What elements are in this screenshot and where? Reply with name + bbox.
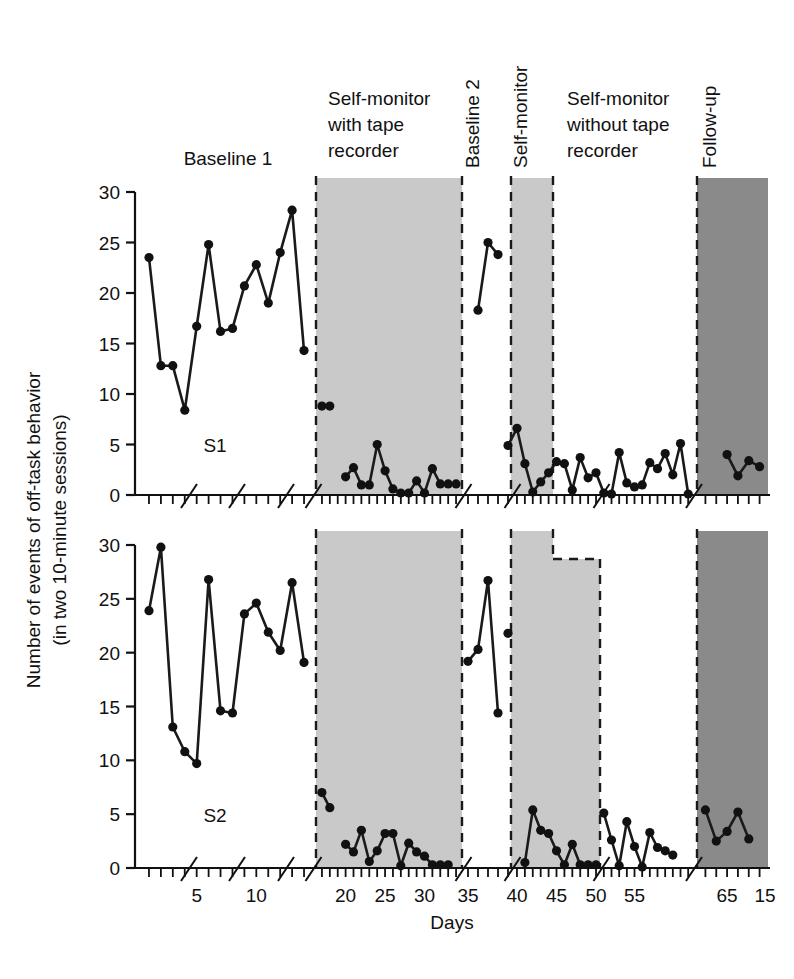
phase-label-sm-tape-line2: with tape [327, 114, 404, 135]
data-point-s2-2-4 [373, 846, 382, 855]
x-tick-label-20: 20 [335, 885, 356, 906]
data-point-s1-0-6 [216, 327, 225, 336]
y-axis-title-line1: Number of events of off-task behavior [23, 371, 44, 688]
data-point-s1-0-10 [264, 299, 273, 308]
data-point-s1-4-0 [503, 441, 512, 450]
data-point-s1-5-3 [584, 473, 593, 482]
x-tick-label-45: 45 [546, 885, 567, 906]
data-point-s2-0-6 [216, 706, 225, 715]
data-point-s1-6-1 [733, 471, 742, 480]
data-point-s2-6-5 [638, 862, 647, 871]
data-point-s2-3-2 [483, 576, 492, 585]
data-point-s1-0-2 [168, 361, 177, 370]
data-point-s1-5-4 [591, 468, 600, 477]
data-point-s2-5-9 [591, 860, 600, 869]
series-line-s2-3 [468, 581, 498, 714]
y-tick-label-bottom-15: 15 [99, 697, 120, 718]
phase-band-self-monitor-bottom [511, 559, 600, 868]
data-point-s1-2-9 [412, 476, 421, 485]
data-point-s1-5-15 [676, 439, 685, 448]
data-point-s2-0-7 [228, 708, 237, 717]
data-point-s2-2-2 [357, 826, 366, 835]
data-point-s2-0-8 [240, 609, 249, 618]
data-point-s2-2-11 [428, 860, 437, 869]
data-point-s2-2-7 [396, 861, 405, 870]
x-tick-label-30: 30 [414, 885, 435, 906]
data-point-s1-2-1 [349, 463, 358, 472]
x-tick-label-15: 15 [754, 885, 775, 906]
data-point-s2-1-1 [325, 803, 334, 812]
data-point-s2-0-0 [144, 606, 153, 615]
phase-band-self-monitor-stub-bottom [511, 531, 553, 559]
data-point-s2-2-6 [388, 829, 397, 838]
data-point-s2-3-3 [493, 708, 502, 717]
phase-label-sm-notape-line3: recorder [567, 140, 638, 161]
phase-label-sm-tape-line3: recorder [328, 140, 399, 161]
data-point-s2-2-10 [420, 852, 429, 861]
data-point-s1-5-12 [653, 464, 662, 473]
data-point-s2-3-0 [463, 657, 472, 666]
data-point-s2-5-1 [528, 805, 537, 814]
y-tick-label-top-15: 15 [99, 334, 120, 355]
data-point-s1-0-0 [144, 253, 153, 262]
data-point-s1-4-2 [520, 459, 529, 468]
data-point-s2-0-3 [180, 747, 189, 756]
data-point-s1-5-14 [668, 470, 677, 479]
data-point-s1-5-11 [645, 458, 654, 467]
x-tick-label-10: 10 [246, 885, 267, 906]
data-point-s1-4-6 [552, 457, 561, 466]
x-axis-title: Days [430, 912, 473, 933]
y-tick-label-bottom-0: 0 [109, 858, 120, 879]
data-point-s2-7-1 [712, 837, 721, 846]
data-point-s2-2-1 [349, 847, 358, 856]
data-point-s1-4-3 [528, 487, 537, 496]
data-point-s1-5-6 [607, 489, 616, 498]
data-point-s1-2-2 [357, 480, 366, 489]
data-point-s1-5-0 [560, 459, 569, 468]
y-tick-label-top-25: 25 [99, 233, 120, 254]
data-point-s2-0-2 [168, 722, 177, 731]
data-point-s1-3-2 [493, 250, 502, 259]
data-point-s2-5-0 [520, 858, 529, 867]
data-point-s2-2-12 [436, 860, 445, 869]
data-point-s1-5-16 [684, 489, 693, 498]
data-point-s1-2-6 [388, 484, 397, 493]
y-tick-label-bottom-25: 25 [99, 589, 120, 610]
phase-label-baseline2: Baseline 2 [462, 79, 483, 168]
data-point-s1-0-9 [252, 260, 261, 269]
data-point-s2-5-4 [552, 846, 561, 855]
y-tick-label-top-5: 5 [109, 435, 120, 456]
series-line-s1-0 [149, 210, 304, 410]
data-point-s2-6-6 [645, 828, 654, 837]
data-point-s2-6-2 [615, 861, 624, 870]
data-point-s2-6-9 [668, 851, 677, 860]
data-point-s2-3-1 [473, 645, 482, 654]
data-point-s1-2-8 [404, 488, 413, 497]
data-point-s1-2-14 [452, 479, 461, 488]
data-point-s2-5-2 [536, 826, 545, 835]
data-point-s2-0-1 [156, 543, 165, 552]
y-tick-label-top-30: 30 [99, 182, 120, 203]
data-point-s2-1-0 [317, 788, 326, 797]
data-point-s2-6-4 [630, 842, 639, 851]
panel-label-s2: S2 [203, 805, 226, 826]
data-point-s1-2-10 [420, 488, 429, 497]
data-point-s2-6-0 [599, 809, 608, 818]
data-point-s1-0-7 [228, 324, 237, 333]
x-tick-label-25: 25 [374, 885, 395, 906]
y-axis-title-line2: (in two 10-minute sessions) [49, 414, 70, 645]
phase-band-sm-tape-bottom [316, 531, 462, 868]
data-point-s1-3-1 [483, 238, 492, 247]
y-tick-label-top-10: 10 [99, 384, 120, 405]
data-point-s2-5-7 [576, 860, 585, 869]
data-point-s1-2-3 [365, 480, 374, 489]
data-point-s1-2-12 [436, 479, 445, 488]
phase-label-sm-notape-line2: without tape [566, 114, 669, 135]
figure-container: 0510152025300510152025305101520253035404… [0, 0, 794, 979]
data-point-s2-2-0 [341, 840, 350, 849]
data-point-s2-2-13 [444, 860, 453, 869]
data-point-s2-5-3 [544, 829, 553, 838]
data-point-s1-5-1 [568, 485, 577, 494]
y-tick-label-bottom-5: 5 [109, 804, 120, 825]
data-point-s2-2-9 [412, 847, 421, 856]
